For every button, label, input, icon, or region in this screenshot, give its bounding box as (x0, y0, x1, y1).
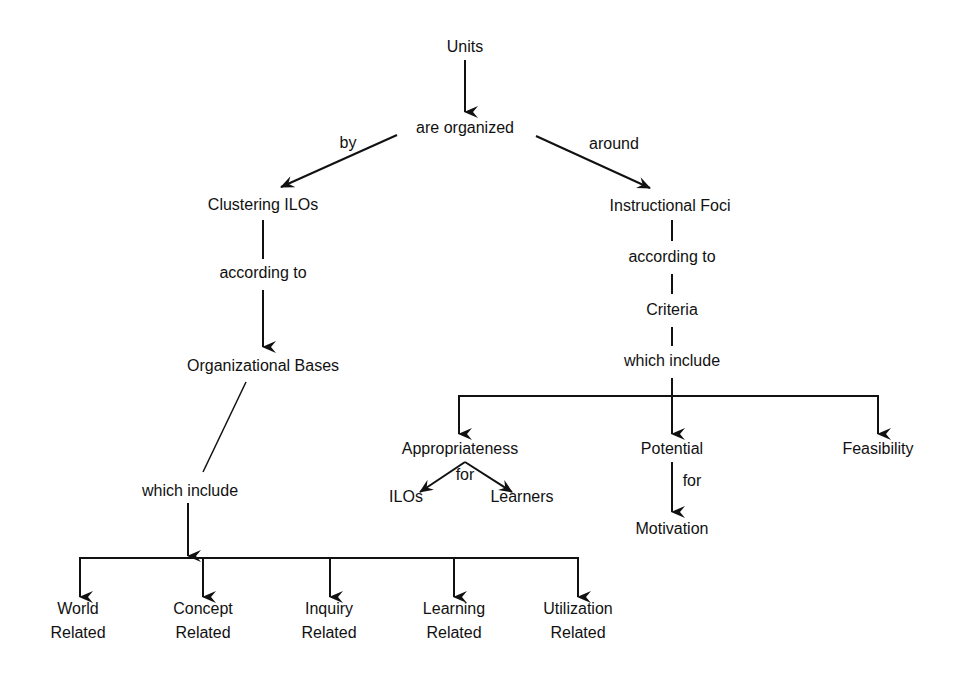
edge-label-by: by (340, 134, 357, 151)
link-are-organized: are organized (416, 119, 514, 136)
svg-text:World: World (57, 600, 99, 617)
edge-label-for-potential: for (683, 472, 702, 489)
concept-map-svg: Units are organized by Clustering ILOs a… (0, 0, 967, 684)
link-which-include-right: which include (623, 352, 720, 369)
svg-text:Learning: Learning (423, 600, 485, 617)
svg-text:Related: Related (175, 624, 230, 641)
node-criteria: Criteria (646, 301, 698, 318)
node-learning-related: Learning Related (423, 600, 485, 641)
edge-label-for-appropriateness: for (456, 466, 475, 483)
svg-text:Concept: Concept (173, 600, 233, 617)
svg-text:Related: Related (50, 624, 105, 641)
node-utilization-related: Utilization Related (543, 600, 612, 641)
node-units: Units (447, 38, 483, 55)
node-motivation: Motivation (636, 520, 709, 537)
node-inquiry-related: Inquiry Related (301, 600, 356, 641)
node-feasibility: Feasibility (842, 440, 913, 457)
svg-text:Inquiry: Inquiry (305, 600, 353, 617)
line-bases-to-which-include (203, 382, 246, 472)
svg-text:Related: Related (301, 624, 356, 641)
node-ilos: ILOs (389, 488, 423, 505)
node-potential: Potential (641, 440, 703, 457)
edge-label-around: around (589, 135, 639, 152)
concept-map-canvas: Units are organized by Clustering ILOs a… (0, 0, 967, 684)
node-clustering-ilos: Clustering ILOs (208, 196, 318, 213)
node-appropriateness: Appropriateness (402, 440, 519, 457)
svg-text:Related: Related (426, 624, 481, 641)
svg-text:Related: Related (550, 624, 605, 641)
node-learners: Learners (490, 488, 553, 505)
link-which-include-left: which include (141, 482, 238, 499)
node-world-related: World Related (50, 600, 105, 641)
node-instructional-foci: Instructional Foci (610, 197, 731, 214)
link-according-to-right: according to (628, 248, 715, 265)
node-organizational-bases: Organizational Bases (187, 357, 339, 374)
link-according-to-left: according to (219, 264, 306, 281)
node-concept-related: Concept Related (173, 600, 233, 641)
svg-text:Utilization: Utilization (543, 600, 612, 617)
